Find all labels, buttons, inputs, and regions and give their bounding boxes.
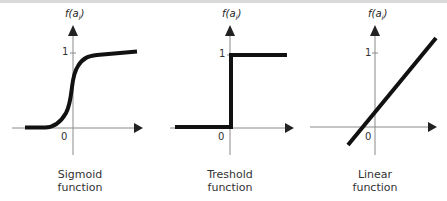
caption-line-2: function <box>35 181 125 194</box>
sigmoid-curve <box>25 52 137 128</box>
sigmoid-caption: Sigmoid function <box>35 168 125 194</box>
threshold-panel <box>170 25 294 155</box>
threshold-tick-zero-label: 0 <box>218 131 224 142</box>
caption-line-2: function <box>185 181 275 194</box>
sigmoid-tick-one-label: 1 <box>62 46 68 57</box>
threshold-caption: Treshold function <box>185 168 275 194</box>
threshold-y-axis-arrow-icon <box>225 25 235 36</box>
axis-label-close: ) <box>81 8 85 19</box>
sigmoid-y-axis-arrow-icon <box>68 25 78 36</box>
axis-label-text: f(a <box>222 8 236 19</box>
sigmoid-x-axis-arrow-icon <box>134 123 143 133</box>
sigmoid-panel <box>12 25 143 155</box>
linear-tick-zero-label: 0 <box>365 131 371 142</box>
threshold-step-curve <box>175 55 287 127</box>
axis-label-text: f(a <box>65 8 79 19</box>
linear-panel <box>310 25 437 155</box>
threshold-tick-one-label: 1 <box>219 48 225 59</box>
caption-line-2: function <box>330 181 420 194</box>
caption-line-1: Treshold <box>185 168 275 181</box>
caption-line-1: Sigmoid <box>35 168 125 181</box>
linear-tick-one-label: 1 <box>365 47 371 58</box>
linear-caption: Linear function <box>330 168 420 194</box>
caption-line-1: Linear <box>330 168 420 181</box>
axis-label-close: ) <box>238 8 242 19</box>
sigmoid-y-axis-label: f(ai) <box>65 8 84 22</box>
threshold-x-axis-arrow-icon <box>285 123 294 133</box>
linear-y-axis-label: f(ai) <box>368 8 387 22</box>
axis-label-close: ) <box>384 8 388 19</box>
linear-y-axis-arrow-icon <box>370 25 380 36</box>
sigmoid-tick-zero-label: 0 <box>61 131 67 142</box>
linear-x-axis-arrow-icon <box>428 122 437 132</box>
threshold-y-axis-label: f(ai) <box>222 8 241 22</box>
linear-curve <box>348 38 436 145</box>
axis-label-text: f(a <box>368 8 382 19</box>
